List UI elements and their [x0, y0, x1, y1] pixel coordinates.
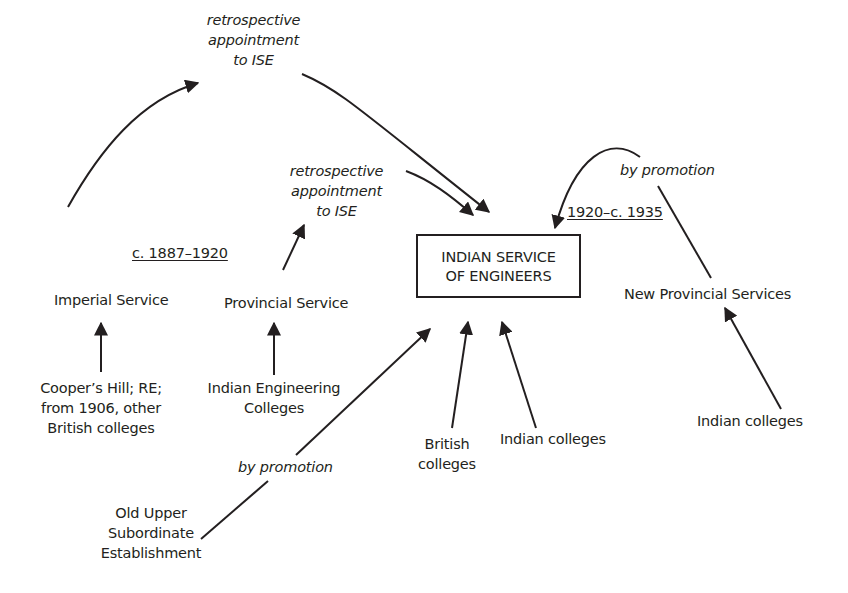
node-coopers-hill: Cooper’s Hill; RE; from 1906, other Brit…: [34, 378, 168, 438]
arrow-np-line: [658, 186, 711, 278]
promotion-label-right: by promotion: [620, 160, 715, 180]
ise-label-line2: OF ENGINEERS: [416, 267, 581, 286]
retro-label-top: retrospective appointment to ISE: [206, 10, 301, 70]
arrow-indian-center-to-ise: [502, 322, 536, 428]
arrow-upper-subordinate-line: [201, 481, 268, 539]
arrow-retro-mid-to-ise: [406, 171, 473, 215]
node-old-upper-subordinate: Old Upper Subordinate Establishment: [96, 503, 206, 563]
node-indian-engineering-colleges: Indian Engineering Colleges: [200, 378, 348, 418]
retro-label-middle: retrospective appointment to ISE: [289, 161, 384, 221]
node-new-provincial-services: New Provincial Services: [624, 284, 791, 304]
arrow-provincial-to-retro: [283, 225, 304, 270]
arrow-indian-right-to-np: [725, 308, 781, 409]
arrow-british-to-ise: [452, 322, 468, 428]
period-label-late: 1920–c. 1935: [567, 202, 663, 222]
node-indian-colleges-center: Indian colleges: [500, 429, 606, 449]
arrow-imperial-to-retro: [68, 83, 198, 207]
node-provincial-service: Provincial Service: [224, 293, 348, 313]
ise-label: INDIAN SERVICE OF ENGINEERS: [416, 248, 581, 286]
node-imperial-service: Imperial Service: [54, 290, 168, 310]
promotion-label-left: by promotion: [238, 457, 333, 477]
period-label-early: c. 1887–1920: [132, 243, 228, 263]
node-british-colleges: British colleges: [414, 434, 480, 474]
node-indian-colleges-right: Indian colleges: [697, 411, 803, 431]
ise-label-line1: INDIAN SERVICE: [416, 248, 581, 267]
